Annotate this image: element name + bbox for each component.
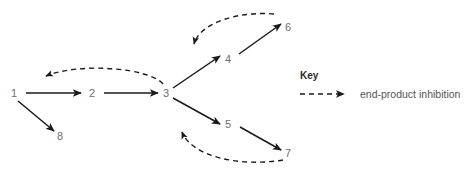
node-label-1: 1 [11,88,17,99]
arrow-5-to-7 [240,127,281,150]
node-label-8: 8 [57,131,63,142]
node-label-4: 4 [225,54,231,65]
node-label-3: 3 [163,88,169,99]
pathway-diagram: 1 2 3 4 5 6 7 8 Key end-product inhibiti… [0,0,471,169]
node-label-5: 5 [225,119,231,130]
node-label-7: 7 [285,148,291,159]
arrow-1-to-8 [18,101,54,131]
arrow-3-to-5 [173,98,220,124]
legend-entry-label: end-product inhibition [360,89,460,100]
node-label-2: 2 [89,88,95,99]
inhibition-6-to-4 [194,14,274,44]
arrow-4-to-6 [239,24,281,54]
arrow-3-to-4 [173,56,220,88]
inhibition-7-to-5 [182,132,283,162]
pathway-svg [0,0,471,169]
inhibition-3-to-2 [46,68,163,84]
node-label-6: 6 [285,22,291,33]
legend-title: Key [300,71,318,81]
